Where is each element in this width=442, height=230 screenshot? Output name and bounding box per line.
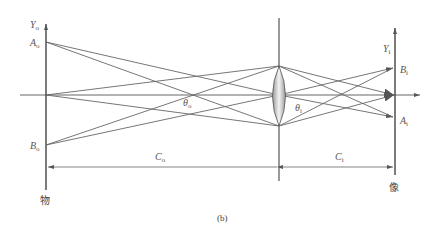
label-Bo: Bo <box>30 140 40 153</box>
label-Yi: Yi <box>383 43 391 56</box>
label-theta-i: θi <box>295 102 302 115</box>
ray-to-Bi-from-bottom <box>279 68 393 126</box>
ray-Bo-top <box>46 66 279 145</box>
label-object: 物 <box>40 194 50 206</box>
label-Ao: Ao <box>29 37 40 50</box>
ray-O-top <box>46 66 279 95</box>
label-Co: Co <box>155 151 166 164</box>
label-image: 像 <box>389 182 399 193</box>
ray-Ao-bottom <box>46 42 279 126</box>
ray-Ao-center <box>46 42 279 95</box>
lens <box>273 66 286 126</box>
ray-to-Bi-from-center <box>279 68 393 95</box>
label-Bi: Bi <box>400 64 408 77</box>
ray-Bo-center <box>46 95 279 145</box>
caption: (b) <box>217 213 228 223</box>
label-Ci: Ci <box>335 151 344 164</box>
label-theta-o: θo <box>183 97 192 110</box>
label-Yo: Yo <box>30 19 40 32</box>
imaging-diagram: Yo Ao Bo θo θi Yi Bi Ai Co Ci 物 像 (b) <box>0 0 442 230</box>
label-Ai: Ai <box>399 115 408 128</box>
ray-O-bottom <box>46 95 279 126</box>
